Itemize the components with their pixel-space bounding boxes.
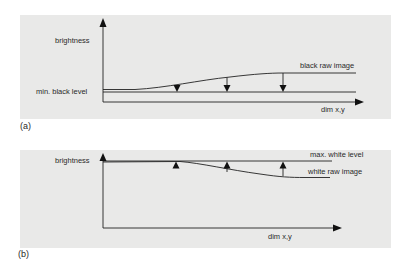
panel-a-down-arrow-icon: [280, 85, 287, 92]
panel-a-down-arrow-icon: [224, 85, 231, 92]
panel-b-up-arrow-icon: [173, 162, 180, 169]
panel-b-x-axis-arrowhead-icon: [333, 225, 342, 232]
panel-a-black-raw-image-curve: [103, 73, 356, 90]
panel-a-y-axis-arrowhead-icon: [100, 18, 107, 27]
panel-a-x-axis-arrowhead-icon: [355, 99, 364, 106]
panel-b-up-arrow-icon: [224, 162, 231, 169]
panel-b-white-raw-image-curve: [103, 162, 330, 178]
panel-b-up-arrow-icon: [280, 162, 287, 169]
diagram-graphics: [0, 0, 405, 277]
panel-b-y-axis-arrowhead-icon: [100, 153, 107, 161]
panel-a-down-arrow-icon: [174, 85, 181, 92]
